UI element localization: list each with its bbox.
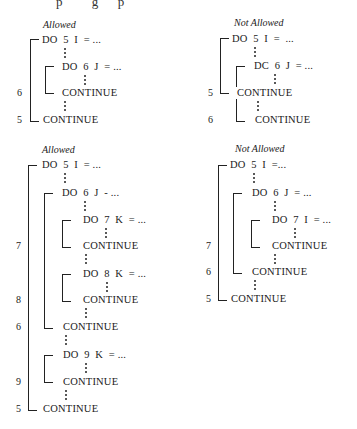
code-line: CONTINUE	[62, 87, 117, 99]
ellipsis-dots	[64, 173, 66, 185]
code-line: CONTINUE	[83, 240, 138, 252]
loop-bracket-7	[251, 220, 260, 248]
ellipsis-dots	[85, 308, 87, 320]
code-line: DO 8 K = ...	[83, 268, 146, 280]
code-line: DO 5 I = ...	[42, 159, 101, 171]
ellipsis-dots	[274, 74, 276, 86]
code-line: DC 6 J = ...	[254, 60, 313, 72]
code-line: DO 5 I = ...	[42, 34, 101, 46]
statement-label: 5	[16, 403, 21, 414]
code-line: DO 7 I = ...	[272, 214, 331, 226]
ellipsis-dots	[274, 201, 276, 213]
code-line: DO 9 K = ...	[63, 349, 126, 361]
code-line: DO 6 J = ...	[252, 187, 312, 199]
ellipsis-dots	[105, 228, 107, 240]
cut-off-heading: p g p	[56, 0, 124, 10]
ellipsis-dots	[254, 280, 256, 292]
code-line: CONTINUE	[43, 114, 98, 126]
panel-label: Allowed	[42, 144, 75, 155]
ellipsis-dots	[64, 101, 66, 113]
statement-label: 8	[16, 294, 21, 305]
statement-label: 6	[208, 114, 213, 125]
ellipsis-dots	[64, 48, 66, 60]
code-line: DO 6 J = ...	[62, 61, 122, 73]
code-line: CONTINUE	[83, 294, 138, 306]
loop-bracket-6	[44, 193, 53, 329]
code-line: CONTINUE	[236, 87, 292, 99]
statement-label: 7	[206, 240, 211, 251]
loop-bracket-5	[220, 38, 229, 94]
loop-bracket-5	[30, 39, 39, 122]
statement-label: 6	[206, 266, 211, 277]
ellipsis-dots	[253, 173, 255, 185]
loop-bracket-8	[62, 274, 71, 302]
loop-bracket-6	[233, 193, 242, 274]
code-line: DO 7 K = ...	[83, 214, 146, 226]
loop-bracket-5	[28, 165, 37, 411]
ellipsis-dots	[85, 363, 87, 375]
ellipsis-dots	[257, 101, 259, 113]
ellipsis-dots	[65, 390, 67, 402]
ellipsis-dots	[106, 282, 108, 294]
statement-label: 6	[17, 87, 22, 98]
statement-label: 7	[16, 240, 21, 251]
code-line: CONTINUE	[63, 376, 118, 388]
ellipsis-dots	[294, 228, 296, 240]
ellipsis-dots	[84, 201, 86, 213]
statement-label: 9	[16, 376, 21, 387]
panel-label: Not Allowed	[234, 17, 284, 28]
statement-label: 5	[208, 87, 213, 98]
code-line: DO 5 I = ...	[232, 33, 294, 45]
code-line: CONTINUE	[255, 114, 310, 126]
loop-bracket-5	[218, 165, 227, 301]
statement-label: 5	[17, 114, 22, 125]
loop-bracket-9	[44, 355, 53, 383]
code-line: CONTINUE	[272, 240, 327, 252]
statement-label: 5	[206, 293, 211, 304]
statement-label: 6	[16, 321, 21, 332]
panel-label: Not Allowed	[235, 143, 285, 154]
code-line: CONTINUE	[231, 293, 286, 305]
ellipsis-dots	[254, 47, 256, 59]
panel-label: Allowed	[43, 19, 76, 30]
code-line: CONTINUE	[252, 266, 307, 278]
ellipsis-dots	[65, 335, 67, 347]
code-line: CONTINUE	[43, 403, 98, 415]
code-line: CONTINUE	[63, 321, 118, 333]
loop-bracket-7	[62, 220, 71, 248]
loop-bracket-6	[45, 66, 54, 94]
ellipsis-dots	[84, 75, 86, 87]
code-line: DO 5 I =...	[230, 159, 286, 171]
code-line: DO 6 J - ...	[62, 187, 119, 199]
ellipsis-dots	[85, 254, 87, 266]
ellipsis-dots	[274, 254, 276, 266]
